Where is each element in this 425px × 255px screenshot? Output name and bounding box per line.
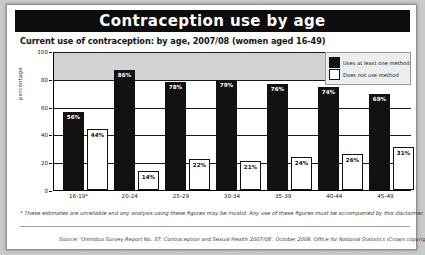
x-tick-label: 16-19* bbox=[53, 193, 104, 205]
bar-value-label: 69% bbox=[373, 96, 386, 102]
y-tick-mark bbox=[49, 191, 52, 192]
bar-value-label: 44% bbox=[91, 132, 104, 138]
bar-uses-method: 86% bbox=[114, 70, 135, 190]
legend-swatch-dark-icon bbox=[329, 57, 340, 68]
y-tick-label: 20 bbox=[22, 160, 48, 166]
bar-group: 86%14% bbox=[105, 52, 156, 190]
bar-value-label: 78% bbox=[169, 84, 182, 90]
divider bbox=[20, 226, 410, 227]
bar-value-label: 56% bbox=[67, 114, 80, 120]
y-tick-mark bbox=[49, 108, 52, 109]
footnote-disclaimer: * These estimates are unreliable and any… bbox=[20, 210, 410, 216]
bar-value-label: 79% bbox=[220, 82, 233, 88]
legend-label-light: Does not use method bbox=[343, 72, 399, 78]
bar-value-label: 22% bbox=[193, 162, 206, 168]
x-tick-label: 40-44 bbox=[309, 193, 360, 205]
source-line: Source: 'Omnibus Survey Report No. 37: C… bbox=[59, 236, 409, 242]
bar-group: 79%21% bbox=[207, 52, 258, 190]
x-tick-label: 25-29 bbox=[155, 193, 206, 205]
legend-item-light: Does not use method bbox=[329, 69, 407, 80]
chart-subtitle: Current use of contraception: by age, 20… bbox=[20, 36, 320, 46]
y-tick-label: 100 bbox=[22, 49, 48, 55]
title-bar: Contraception use by age bbox=[15, 10, 410, 32]
y-tick-mark bbox=[49, 135, 52, 136]
bar-uses-method: 79% bbox=[216, 80, 237, 190]
y-tick-label: 60 bbox=[22, 105, 48, 111]
y-tick-mark bbox=[49, 52, 52, 53]
bar-value-label: 24% bbox=[295, 160, 308, 166]
y-tick-label: 80 bbox=[22, 77, 48, 83]
bar-uses-method: 76% bbox=[267, 84, 288, 190]
legend-label-dark: Uses at least one method bbox=[343, 60, 409, 66]
bar-value-label: 86% bbox=[118, 72, 131, 78]
bar-value-label: 14% bbox=[142, 174, 155, 180]
y-tick-label: 0 bbox=[22, 188, 48, 194]
page-title: Contraception use by age bbox=[99, 12, 325, 30]
x-tick-label: 30-34 bbox=[206, 193, 257, 205]
bar-uses-method: 78% bbox=[165, 82, 186, 190]
bar-uses-method: 56% bbox=[63, 112, 84, 190]
x-tick-label: 35-39 bbox=[258, 193, 309, 205]
y-tick-mark bbox=[49, 163, 52, 164]
screenshot-root: Contraception use by age Current use of … bbox=[0, 0, 425, 255]
legend-item-dark: Uses at least one method bbox=[329, 57, 407, 68]
bar-value-label: 31% bbox=[397, 150, 410, 156]
bar-value-label: 21% bbox=[244, 164, 257, 170]
bar-value-label: 74% bbox=[322, 89, 335, 95]
chart-card: Contraception use by age Current use of … bbox=[6, 4, 417, 250]
x-tick-label: 20-24 bbox=[104, 193, 155, 205]
bar-uses-method: 69% bbox=[369, 94, 390, 190]
y-axis-label: percentage bbox=[17, 67, 23, 100]
bar-value-label: 26% bbox=[346, 157, 359, 163]
x-tick-label: 45-49 bbox=[360, 193, 411, 205]
bar-no-method: 31% bbox=[393, 147, 414, 190]
bar-group: 56%44% bbox=[54, 52, 105, 190]
bar-group: 78%22% bbox=[156, 52, 207, 190]
y-tick-label: 40 bbox=[22, 132, 48, 138]
bar-uses-method: 74% bbox=[318, 87, 339, 190]
bar-group: 76%24% bbox=[258, 52, 309, 190]
x-axis-ticks: 16-19*20-2425-2930-3435-3940-4445-49 bbox=[53, 193, 411, 205]
legend-swatch-light-icon bbox=[329, 69, 340, 80]
y-tick-mark bbox=[49, 80, 52, 81]
chart-legend: Uses at least one method Does not use me… bbox=[325, 52, 411, 85]
bar-value-label: 76% bbox=[271, 86, 284, 92]
